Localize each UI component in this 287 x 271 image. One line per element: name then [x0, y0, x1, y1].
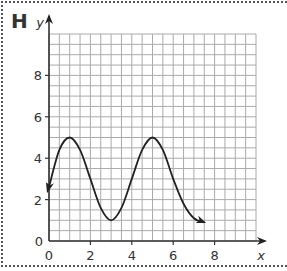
y-tick-label: 4	[34, 151, 42, 166]
y-tick-label: 8	[34, 68, 42, 83]
y-axis-label: y	[35, 15, 44, 30]
x-tick-label: 0	[45, 248, 53, 263]
x-tick-label: 4	[128, 248, 136, 263]
x-tick-label: 6	[169, 248, 177, 263]
chart: 0246802468xy	[0, 0, 287, 271]
y-tick-label: 6	[34, 110, 42, 125]
x-axis-label: x	[256, 248, 265, 263]
x-tick-label: 8	[210, 248, 218, 263]
x-tick-label: 2	[86, 248, 94, 263]
y-tick-label: 2	[34, 193, 42, 208]
y-tick-label: 0	[35, 234, 43, 249]
